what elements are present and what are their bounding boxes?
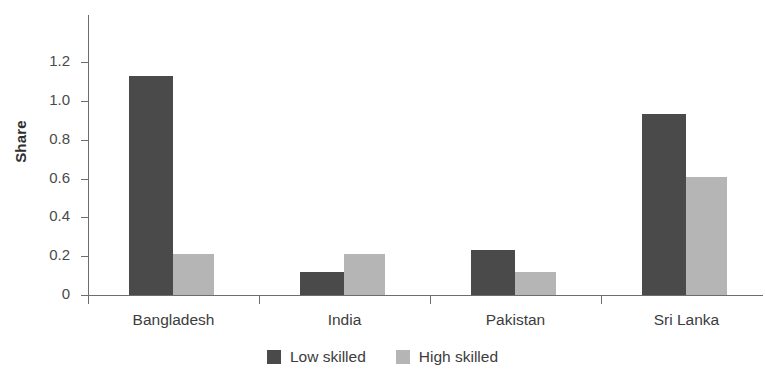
x-axis-category-label: Bangladesh (88, 311, 259, 329)
x-axis-tick-mark (259, 296, 260, 304)
y-axis-tick-label: 0.4 (10, 207, 70, 224)
x-axis-category-label: Sri Lanka (601, 311, 765, 329)
y-axis-tick-label: 0.8 (10, 130, 70, 147)
y-axis-tick-label: 0.6 (10, 169, 70, 186)
legend-label: High skilled (419, 348, 498, 366)
legend-swatch-icon (396, 350, 410, 364)
bar-low-skilled (129, 76, 173, 295)
y-axis-line (88, 15, 89, 296)
x-axis-tick-mark (601, 296, 602, 304)
y-axis-tick-label: 1.0 (10, 91, 70, 108)
y-axis-tick-mark (81, 256, 88, 257)
y-axis-tick-mark (81, 101, 88, 102)
bar-high-skilled (686, 177, 727, 295)
y-axis-tick-mark (81, 179, 88, 180)
bar-chart: Share 00.20.40.60.81.01.2 BangladeshIndi… (0, 0, 765, 377)
y-axis-tick-mark (81, 295, 88, 296)
chart-legend: Low skilledHigh skilled (0, 348, 765, 366)
bar-high-skilled (344, 254, 385, 295)
y-axis-tick-mark (81, 140, 88, 141)
y-axis-tick-label: 0.2 (10, 246, 70, 263)
legend-label: Low skilled (290, 348, 366, 366)
y-axis-tick-mark (81, 217, 88, 218)
y-axis-tick-mark (81, 62, 88, 63)
x-axis-tick-mark (88, 296, 89, 304)
bar-high-skilled (173, 254, 214, 295)
x-axis-tick-mark (430, 296, 431, 304)
y-axis-tick-label: 0 (10, 285, 70, 302)
legend-swatch-icon (267, 350, 281, 364)
x-axis-line (88, 295, 763, 296)
bar-low-skilled (300, 272, 344, 295)
plot-area: 00.20.40.60.81.01.2 BangladeshIndiaPakis… (0, 0, 765, 377)
legend-item: High skilled (396, 348, 498, 366)
bar-low-skilled (642, 114, 686, 295)
x-axis-category-label: India (259, 311, 430, 329)
x-axis-category-label: Pakistan (430, 311, 601, 329)
y-axis-tick-label: 1.2 (10, 52, 70, 69)
bar-low-skilled (471, 250, 515, 295)
bar-high-skilled (515, 272, 556, 295)
legend-item: Low skilled (267, 348, 366, 366)
